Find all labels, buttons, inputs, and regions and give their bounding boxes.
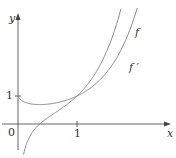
- curve-f-prime-label: f ′: [129, 62, 139, 73]
- y-tick-1-label: 1: [6, 90, 13, 101]
- chart-container: y x 0 1 1 f f ′: [0, 0, 176, 158]
- y-axis-arrow-icon: [16, 13, 21, 20]
- curve-f-label: f: [135, 27, 139, 38]
- curve-f: [18, 8, 137, 105]
- plot-area: [0, 0, 176, 158]
- x-tick-1-label: 1: [74, 128, 81, 139]
- y-axis-label: y: [9, 13, 15, 24]
- x-axis-arrow-icon: [164, 122, 171, 127]
- x-axis-label: x: [167, 128, 173, 139]
- origin-label: 0: [8, 127, 15, 138]
- curve-f-prime: [24, 9, 121, 155]
